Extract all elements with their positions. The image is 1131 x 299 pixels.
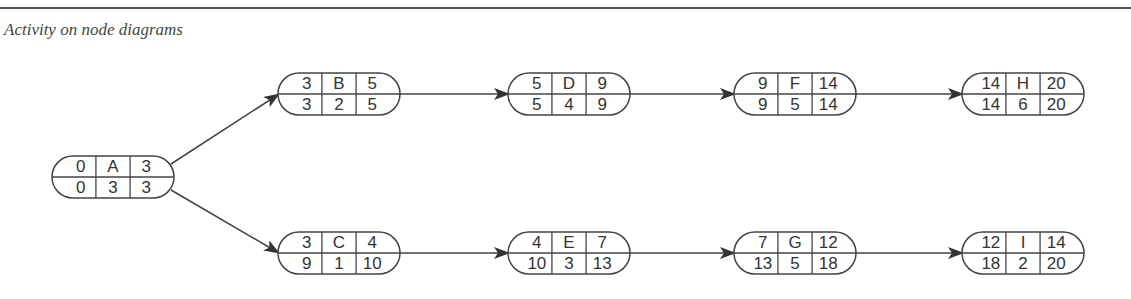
node-I-earliest-finish: 14 (1047, 233, 1066, 252)
node-I-latest-finish: 20 (1047, 254, 1066, 273)
node-B-activity-label: B (333, 74, 344, 93)
activity-node-B: 3B5325 (278, 73, 400, 115)
node-A-duration: 3 (108, 178, 117, 197)
node-B-earliest-finish: 5 (367, 74, 376, 93)
activity-on-node-diagram: 0A30333B53253C491105D95494E7103139F14951… (0, 0, 1131, 299)
node-F-earliest-start: 9 (758, 74, 767, 93)
node-D-activity-label: D (563, 74, 575, 93)
node-H-earliest-start: 14 (981, 74, 1000, 93)
node-H-latest-finish: 20 (1047, 95, 1066, 114)
node-D-duration: 4 (564, 95, 573, 114)
node-E-earliest-start: 4 (532, 233, 541, 252)
node-F-latest-finish: 14 (819, 95, 838, 114)
node-H-latest-start: 14 (981, 95, 1000, 114)
node-E-activity-label: E (563, 233, 574, 252)
arrow-A-to-B (171, 94, 279, 164)
node-I-activity-label: I (1021, 233, 1026, 252)
arrow-A-to-C (171, 190, 279, 253)
node-A-latest-start: 0 (76, 178, 85, 197)
node-A-earliest-start: 0 (76, 157, 85, 176)
node-B-duration: 2 (334, 95, 343, 114)
node-D-earliest-start: 5 (532, 74, 541, 93)
node-A-earliest-finish: 3 (141, 157, 150, 176)
node-C-latest-finish: 10 (363, 254, 382, 273)
node-I-latest-start: 18 (981, 254, 1000, 273)
node-A-activity-label: A (107, 157, 119, 176)
node-G-latest-start: 13 (753, 254, 772, 273)
node-F-duration: 5 (790, 95, 799, 114)
node-H-duration: 6 (1018, 95, 1027, 114)
node-G-duration: 5 (790, 254, 799, 273)
node-G-earliest-start: 7 (758, 233, 767, 252)
node-C-duration: 1 (334, 254, 343, 273)
node-C-activity-label: C (333, 233, 345, 252)
nodes-layer: 0A30333B53253C491105D95494E7103139F14951… (52, 73, 1084, 274)
node-G-latest-finish: 18 (819, 254, 838, 273)
edges-layer (171, 94, 963, 253)
node-C-earliest-start: 3 (302, 233, 311, 252)
node-I-earliest-start: 12 (981, 233, 1000, 252)
node-B-latest-start: 3 (302, 95, 311, 114)
node-B-latest-finish: 5 (367, 95, 376, 114)
activity-node-E: 4E710313 (508, 232, 630, 274)
node-H-earliest-finish: 20 (1047, 74, 1066, 93)
activity-node-C: 3C49110 (278, 232, 400, 274)
node-E-earliest-finish: 7 (597, 233, 606, 252)
node-G-earliest-finish: 12 (819, 233, 838, 252)
node-F-latest-start: 9 (758, 95, 767, 114)
node-H-activity-label: H (1017, 74, 1029, 93)
node-E-duration: 3 (564, 254, 573, 273)
node-B-earliest-start: 3 (302, 74, 311, 93)
node-F-earliest-finish: 14 (819, 74, 838, 93)
node-C-earliest-finish: 4 (367, 233, 376, 252)
activity-node-D: 5D9549 (508, 73, 630, 115)
activity-node-I: 12I1418220 (962, 232, 1084, 274)
activity-node-A: 0A3033 (52, 156, 174, 198)
node-G-activity-label: G (788, 233, 801, 252)
node-D-latest-start: 5 (532, 95, 541, 114)
activity-node-G: 7G1213518 (734, 232, 856, 274)
node-F-activity-label: F (790, 74, 800, 93)
activity-node-H: 14H2014620 (962, 73, 1084, 115)
node-D-earliest-finish: 9 (597, 74, 606, 93)
node-D-latest-finish: 9 (597, 95, 606, 114)
node-E-latest-finish: 13 (593, 254, 612, 273)
activity-node-F: 9F149514 (734, 73, 856, 115)
node-I-duration: 2 (1018, 254, 1027, 273)
node-C-latest-start: 9 (302, 254, 311, 273)
node-E-latest-start: 10 (527, 254, 546, 273)
node-A-latest-finish: 3 (141, 178, 150, 197)
